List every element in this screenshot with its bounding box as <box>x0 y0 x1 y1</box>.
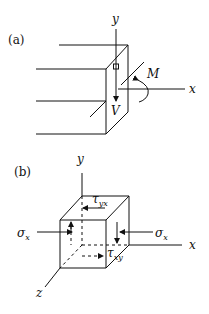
moment-label: M <box>146 67 160 81</box>
moment-arrow <box>138 80 148 102</box>
z-axis-label: z <box>35 286 43 300</box>
neutral-axis-lower <box>90 101 106 117</box>
x-axis-label-b: x <box>189 238 196 252</box>
beam-stress-diagram: (a) y x V M (b) y <box>0 0 209 314</box>
z-axis-line <box>45 268 60 287</box>
sigma-x-left-label: σx <box>17 226 30 242</box>
y-axis-label-a: y <box>111 12 119 26</box>
cube-top-right-diagonal <box>106 196 129 220</box>
panel-b: (b) y x z σx <box>14 152 196 300</box>
panel-a-label: (a) <box>8 33 25 47</box>
hidden-bottom-diagonal <box>60 245 82 268</box>
y-axis-label-b: y <box>76 152 84 166</box>
hidden-shear-arrowhead <box>98 253 104 259</box>
tau-yx-label: τyx <box>92 192 108 208</box>
section-top-diagonal <box>106 45 128 69</box>
tau-xy-label: τxy <box>107 246 123 262</box>
sigma-x-right-label: σx <box>155 226 168 242</box>
shear-label: V <box>111 104 121 118</box>
panel-b-label: (b) <box>14 165 31 179</box>
cube-top-left-diagonal <box>60 196 82 220</box>
x-axis-label-a: x <box>189 82 196 96</box>
panel-a: (a) y x V M <box>8 12 196 134</box>
